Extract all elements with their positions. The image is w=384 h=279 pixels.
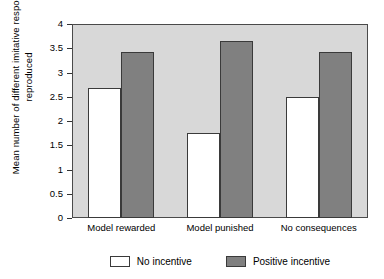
x-axis-category-label: Model punished — [171, 222, 270, 233]
legend-label: Positive incentive — [253, 256, 330, 267]
y-axis-tick-label: 2 — [58, 115, 63, 126]
bar-chart-figure: Mean number of different imitative respo… — [0, 0, 384, 279]
x-axis-category-label: Model rewarded — [72, 222, 171, 233]
bar — [88, 88, 121, 218]
bar — [220, 41, 253, 218]
y-axis-tick: 3.5 — [0, 48, 72, 49]
y-axis-tick-label: 0 — [58, 212, 63, 223]
y-axis-tick: 0 — [0, 218, 72, 219]
y-axis-tick: 2.5 — [0, 97, 72, 98]
y-axis-tick: 1.5 — [0, 145, 72, 146]
legend-swatch-icon — [226, 256, 246, 267]
legend-swatch-icon — [110, 256, 130, 267]
y-axis-tick: 1 — [0, 170, 72, 171]
y-axis-tick: 2 — [0, 121, 72, 122]
y-axis-tick-label: 2.5 — [50, 91, 63, 102]
legend-item: Positive incentive — [226, 256, 330, 267]
legend-item: No incentive — [110, 256, 192, 267]
y-axis-tick: 0.5 — [0, 194, 72, 195]
y-axis-tick-label: 0.5 — [50, 188, 63, 199]
y-axis-tick-label: 1.5 — [50, 139, 63, 150]
x-axis-category-label: No consequences — [269, 222, 368, 233]
y-axis-tick-label: 4 — [58, 18, 63, 29]
y-axis-tick-label: 3.5 — [50, 42, 63, 53]
y-axis-tick-label: 3 — [58, 67, 63, 78]
chart-legend: No incentivePositive incentive — [72, 252, 368, 270]
bar — [286, 97, 319, 218]
bars-layer — [72, 24, 368, 218]
bar — [121, 52, 154, 218]
y-axis-title: Mean number of different imitative respo… — [5, 0, 39, 177]
y-axis-tick: 3 — [0, 73, 72, 74]
y-axis-tick-mark — [67, 218, 72, 219]
x-axis-category-labels: Model rewardedModel punishedNo consequen… — [72, 222, 368, 238]
y-axis-tick-label: 1 — [58, 164, 63, 175]
bar — [319, 52, 352, 218]
y-axis-tick: 4 — [0, 24, 72, 25]
bar — [187, 133, 220, 218]
legend-label: No incentive — [137, 256, 192, 267]
